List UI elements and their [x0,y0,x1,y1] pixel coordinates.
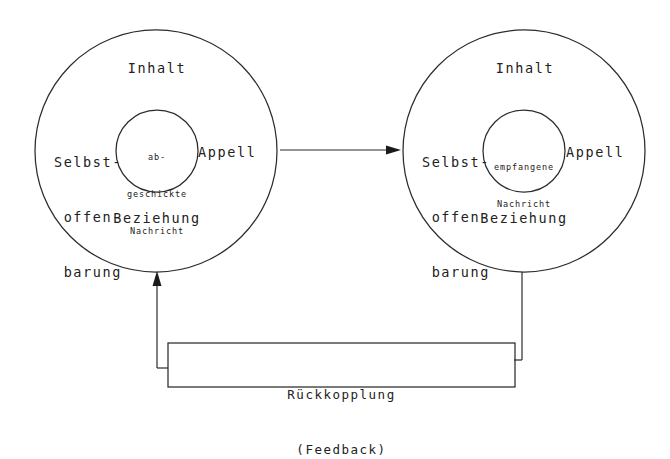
sender-inner-line-1: ab- [113,151,201,163]
sender-inner-line-3: Nachricht [113,225,201,237]
receiver-label-appell: Appell [566,143,646,161]
receiver-inner-line-2: Nachricht [476,198,572,210]
feedback-label-line-1: Rückkopplung [168,386,515,404]
feedback-path-to-sender-shape [153,271,169,368]
receiver-selbstoffenbarung-line-3: barung [400,263,490,281]
sender-inner-label-abgeschickte-nachricht: ab- geschickte Nachricht [113,126,201,261]
sender-selbstoffenbarung-line-3: barung [32,263,122,281]
sender-selbstoffenbarung-line-1: Selbst- [32,153,122,171]
receiver-inner-label-empfangene-nachricht: empfangene Nachricht [476,136,572,235]
receiver-inner-line-1: empfangene [476,161,572,173]
sender-label-appell: Appell [198,143,274,161]
sender-label-inhalt: Inhalt [106,59,208,77]
feedback-box-label: Rückkopplung (Feedback) [168,350,515,459]
sender-inner-line-2: geschickte [113,188,201,200]
receiver-label-inhalt: Inhalt [474,59,576,77]
sender-to-receiver-arrow-shape [280,146,401,155]
feedback-label-line-2: (Feedback) [168,441,515,459]
